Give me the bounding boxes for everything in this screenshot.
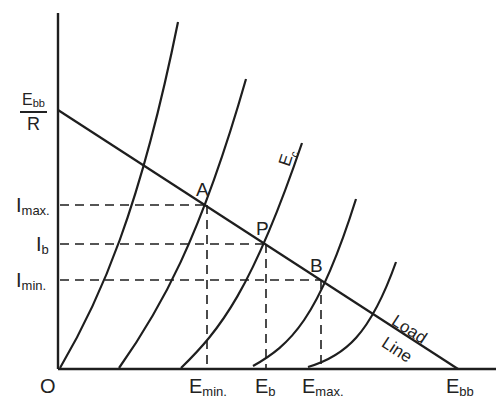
plate-curve-1 xyxy=(60,22,178,368)
y-intercept-denominator: R xyxy=(20,113,47,133)
eb-label: Eb xyxy=(255,376,276,398)
imax-label: Imax. xyxy=(16,195,50,217)
y-intercept-numerator: Ebb xyxy=(20,92,47,113)
ib-label: Ib xyxy=(36,234,49,256)
imin-label: Imin. xyxy=(16,270,46,292)
emax-label: Emax. xyxy=(302,376,344,398)
origin-label: O xyxy=(40,376,56,396)
point-p-label: P xyxy=(256,219,269,238)
point-a-label: A xyxy=(196,180,209,199)
point-b-label: B xyxy=(310,256,323,275)
load-line-diagram xyxy=(0,0,503,409)
ebb-label: Ebb xyxy=(446,376,474,398)
plate-curve-2 xyxy=(119,79,246,368)
emin-label: Emin. xyxy=(189,376,227,398)
y-intercept-label: Ebb R xyxy=(20,92,47,133)
